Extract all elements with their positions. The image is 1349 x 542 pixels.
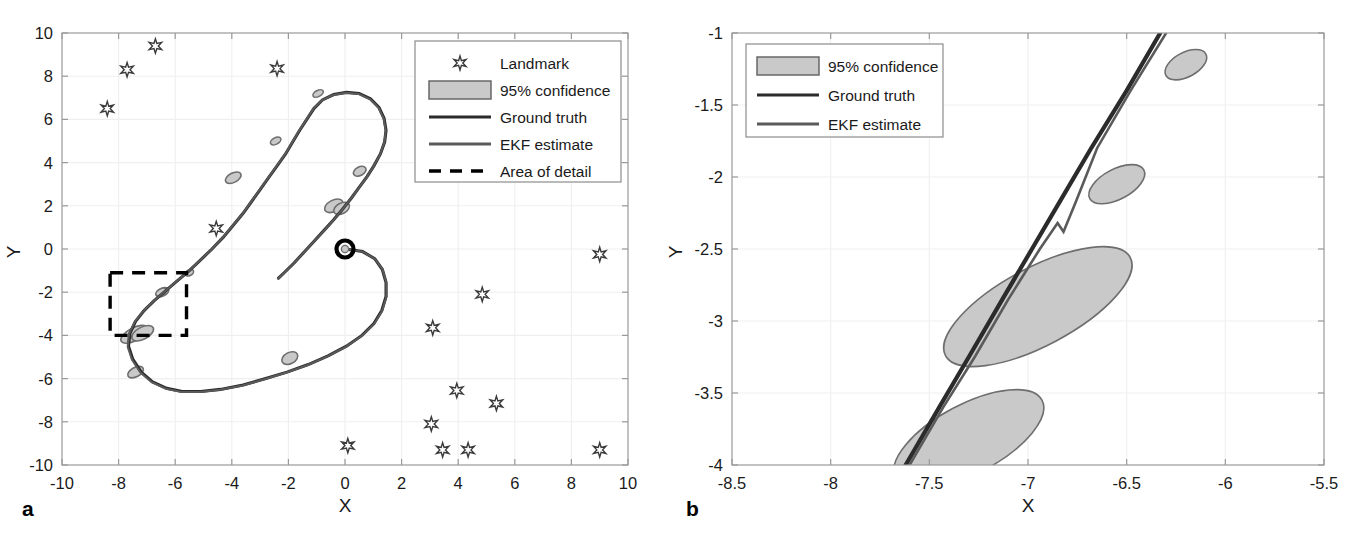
y-tick-label-a: -8 [38, 413, 53, 431]
x-tick-label-a: -4 [224, 474, 239, 492]
panel-letter-b: b [686, 497, 699, 520]
y-tick-label-a: 8 [44, 67, 53, 85]
x-tick-label-a: -8 [111, 474, 126, 492]
x-tick-label-b: -6.5 [1112, 474, 1140, 492]
y-axis-label-a: Y [3, 245, 24, 258]
y-tick-label-b: -4 [708, 456, 723, 474]
y-tick-label-b: -3 [708, 312, 723, 330]
x-tick-label-b: -8 [823, 474, 838, 492]
y-tick-label-a: 6 [44, 110, 53, 128]
legend-confidence-swatch-icon [757, 57, 819, 75]
legend-b: 95% confidenceGround truthEKF estimate [746, 44, 943, 137]
y-tick-label-a: 0 [44, 240, 53, 258]
x-tick-label-a: 6 [510, 474, 519, 492]
panel-b-plot: -8.5-8-7.5-7-6.5-6-5.5-4-3.5-3-2.5-2-1.5… [660, 0, 1349, 542]
x-tick-label-b: -6 [1218, 474, 1233, 492]
legend-label: Area of detail [500, 163, 591, 180]
panel-letter-a: a [22, 497, 34, 520]
y-tick-label-a: 2 [44, 197, 53, 215]
y-tick-label-a: 10 [35, 24, 53, 42]
y-tick-label-b: -2.5 [695, 240, 723, 258]
y-tick-label-a: -2 [38, 283, 53, 301]
x-tick-label-a: 0 [340, 474, 349, 492]
y-tick-label-a: -4 [38, 326, 53, 344]
legend-label: EKF estimate [828, 116, 921, 133]
x-tick-label-b: -7.5 [915, 474, 943, 492]
start-marker-core [341, 245, 348, 252]
y-tick-label-a: 4 [44, 154, 53, 172]
legend-label: 95% confidence [500, 82, 610, 99]
legend-label: 95% confidence [828, 58, 938, 75]
y-tick-label-b: -3.5 [695, 384, 723, 402]
y-tick-label-a: -6 [38, 370, 53, 388]
legend-label: Landmark [500, 55, 569, 72]
legend-label: EKF estimate [500, 136, 593, 153]
panel-a: -10-8-6-4-20246810-10-8-6-4-20246810 X Y… [0, 0, 660, 542]
x-tick-label-a: 8 [567, 474, 576, 492]
x-tick-label-b: -7 [1021, 474, 1036, 492]
x-tick-label-a: 2 [397, 474, 406, 492]
legend-label: Ground truth [500, 109, 587, 126]
legend-confidence-swatch-icon [429, 81, 491, 99]
x-axis-label-a: X [339, 495, 352, 516]
y-tick-label-b: -1 [708, 24, 723, 42]
y-axis-label-b: Y [665, 245, 686, 258]
x-axis-label-b: X [1022, 495, 1035, 516]
panel-b: -8.5-8-7.5-7-6.5-6-5.5-4-3.5-3-2.5-2-1.5… [660, 0, 1349, 542]
x-tick-label-a: -2 [281, 474, 296, 492]
x-tick-label-b: -8.5 [718, 474, 746, 492]
x-tick-label-a: -10 [50, 474, 74, 492]
figure-root: -10-8-6-4-20246810-10-8-6-4-20246810 X Y… [0, 0, 1349, 542]
y-tick-label-a: -10 [29, 456, 53, 474]
y-tick-label-b: -1.5 [695, 96, 723, 114]
legend-label: Ground truth [828, 87, 915, 104]
y-tick-label-b: -2 [708, 168, 723, 186]
x-tick-label-a: 4 [454, 474, 463, 492]
x-tick-label-a: 10 [619, 474, 637, 492]
panel-a-plot: -10-8-6-4-20246810-10-8-6-4-20246810 X Y… [0, 0, 660, 542]
legend-a: Landmark95% confidenceGround truthEKF es… [415, 41, 621, 182]
x-tick-label-b: -5.5 [1310, 474, 1338, 492]
x-tick-label-a: -6 [168, 474, 183, 492]
